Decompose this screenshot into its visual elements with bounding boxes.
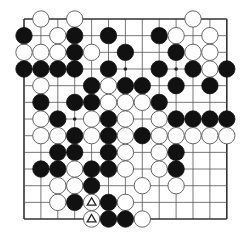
black-stone[interactable] <box>100 27 116 43</box>
white-stone[interactable] <box>33 111 49 127</box>
black-stone[interactable] <box>67 194 83 210</box>
black-stone[interactable] <box>33 161 49 177</box>
black-stone[interactable] <box>100 144 116 160</box>
white-stone[interactable] <box>50 194 66 210</box>
black-stone[interactable] <box>117 211 133 227</box>
white-stone[interactable] <box>50 127 66 143</box>
black-stone[interactable] <box>67 94 83 110</box>
white-stone[interactable] <box>134 178 150 194</box>
white-stone[interactable] <box>117 94 133 110</box>
white-stone[interactable] <box>117 144 133 160</box>
black-stone[interactable] <box>100 61 116 77</box>
black-stone[interactable] <box>100 127 116 143</box>
white-stone[interactable] <box>50 44 66 60</box>
white-stone[interactable] <box>67 11 83 27</box>
white-stone[interactable] <box>100 94 116 110</box>
white-stone[interactable] <box>151 111 167 127</box>
white-stone[interactable] <box>185 127 201 143</box>
white-stone[interactable] <box>202 44 218 60</box>
white-stone[interactable] <box>202 61 218 77</box>
white-stone[interactable] <box>67 178 83 194</box>
stone-disc <box>100 194 116 210</box>
black-stone[interactable] <box>83 77 99 93</box>
white-stone[interactable] <box>117 111 133 127</box>
black-stone[interactable] <box>168 161 184 177</box>
black-stone[interactable] <box>134 77 150 93</box>
white-stone[interactable] <box>134 211 150 227</box>
stone-disc <box>185 127 201 143</box>
black-stone[interactable] <box>83 94 99 110</box>
go-board[interactable] <box>0 0 249 239</box>
black-stone[interactable] <box>151 27 167 43</box>
white-stone[interactable] <box>185 11 201 27</box>
black-stone[interactable] <box>219 61 235 77</box>
white-stone[interactable] <box>168 127 184 143</box>
white-stone[interactable] <box>33 77 49 93</box>
white-stone[interactable] <box>168 178 184 194</box>
white-stone[interactable] <box>168 27 184 43</box>
black-stone[interactable] <box>83 178 99 194</box>
white-stone[interactable] <box>83 44 99 60</box>
white-stone[interactable] <box>219 127 235 143</box>
black-stone[interactable] <box>50 111 66 127</box>
stone-disc <box>134 77 150 93</box>
white-stone[interactable] <box>151 161 167 177</box>
black-stone[interactable] <box>168 44 184 60</box>
stone-disc <box>168 178 184 194</box>
black-stone[interactable] <box>117 44 133 60</box>
black-stone[interactable] <box>16 61 32 77</box>
black-stone[interactable] <box>185 61 201 77</box>
white-stone[interactable] <box>117 161 133 177</box>
white-stone[interactable] <box>33 127 49 143</box>
white-stone[interactable] <box>202 27 218 43</box>
black-stone[interactable] <box>100 211 116 227</box>
white-stone[interactable] <box>185 44 201 60</box>
white-stone[interactable] <box>33 44 49 60</box>
black-stone[interactable] <box>168 144 184 160</box>
black-stone[interactable] <box>50 144 66 160</box>
white-stone[interactable] <box>151 127 167 143</box>
white-stone[interactable] <box>151 144 167 160</box>
white-stone[interactable] <box>33 11 49 27</box>
white-stone[interactable] <box>117 194 133 210</box>
white-stone[interactable] <box>134 94 150 110</box>
black-stone[interactable] <box>100 161 116 177</box>
black-stone[interactable] <box>83 161 99 177</box>
white-stone[interactable] <box>117 127 133 143</box>
stone-disc <box>185 61 201 77</box>
white-stone[interactable] <box>83 211 99 227</box>
black-stone[interactable] <box>67 127 83 143</box>
black-stone[interactable] <box>50 161 66 177</box>
black-stone[interactable] <box>117 77 133 93</box>
black-stone[interactable] <box>33 94 49 110</box>
black-stone[interactable] <box>100 111 116 127</box>
black-stone[interactable] <box>50 61 66 77</box>
black-stone[interactable] <box>67 44 83 60</box>
white-stone[interactable] <box>83 194 99 210</box>
black-stone[interactable] <box>134 127 150 143</box>
white-stone[interactable] <box>83 127 99 143</box>
white-stone[interactable] <box>83 111 99 127</box>
black-stone[interactable] <box>151 94 167 110</box>
stone-disc <box>202 77 218 93</box>
black-stone[interactable] <box>185 111 201 127</box>
stone-disc <box>83 178 99 194</box>
black-stone[interactable] <box>202 111 218 127</box>
black-stone[interactable] <box>151 61 167 77</box>
black-stone[interactable] <box>100 194 116 210</box>
black-stone[interactable] <box>67 144 83 160</box>
black-stone[interactable] <box>168 77 184 93</box>
black-stone[interactable] <box>67 61 83 77</box>
black-stone[interactable] <box>16 27 32 43</box>
black-stone[interactable] <box>219 111 235 127</box>
black-stone[interactable] <box>168 111 184 127</box>
black-stone[interactable] <box>202 77 218 93</box>
white-stone[interactable] <box>50 27 66 43</box>
white-stone[interactable] <box>100 77 116 93</box>
white-stone[interactable] <box>202 127 218 143</box>
black-stone[interactable] <box>33 61 49 77</box>
black-stone[interactable] <box>67 27 83 43</box>
white-stone[interactable] <box>67 161 83 177</box>
white-stone[interactable] <box>16 44 32 60</box>
white-stone[interactable] <box>50 178 66 194</box>
